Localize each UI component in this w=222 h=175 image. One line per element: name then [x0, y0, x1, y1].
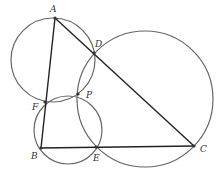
label-p: P [85, 90, 93, 100]
label-e: E [92, 153, 100, 163]
segment-bc [41, 146, 194, 148]
point-a [53, 16, 56, 19]
label-c: C [200, 144, 207, 154]
label-b: B [30, 151, 38, 161]
triangle-sides [41, 18, 194, 148]
circle-bfpe [34, 96, 102, 164]
point-c [192, 144, 195, 147]
segment-ab [41, 18, 55, 148]
label-a: A [49, 4, 57, 14]
point-e [94, 145, 97, 148]
label-d: D [94, 39, 102, 49]
point-p [76, 92, 79, 95]
labels-group: ADFPBEC [30, 4, 207, 163]
geometry-diagram: ADFPBEC [0, 0, 222, 175]
point-f [43, 100, 46, 103]
label-f: F [31, 102, 39, 112]
point-d [92, 51, 95, 54]
point-b [39, 146, 42, 149]
